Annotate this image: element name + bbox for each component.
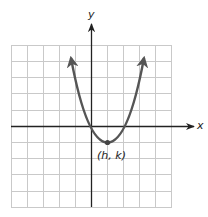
x-axis-label: x [197, 120, 204, 131]
vertex-label: (h, k) [97, 150, 126, 161]
parabola-curve-right [108, 58, 145, 143]
parabola-curve [71, 58, 108, 143]
vertex-point [105, 140, 110, 145]
coordinate-graph [0, 0, 208, 217]
y-axis-label: y [88, 9, 95, 20]
